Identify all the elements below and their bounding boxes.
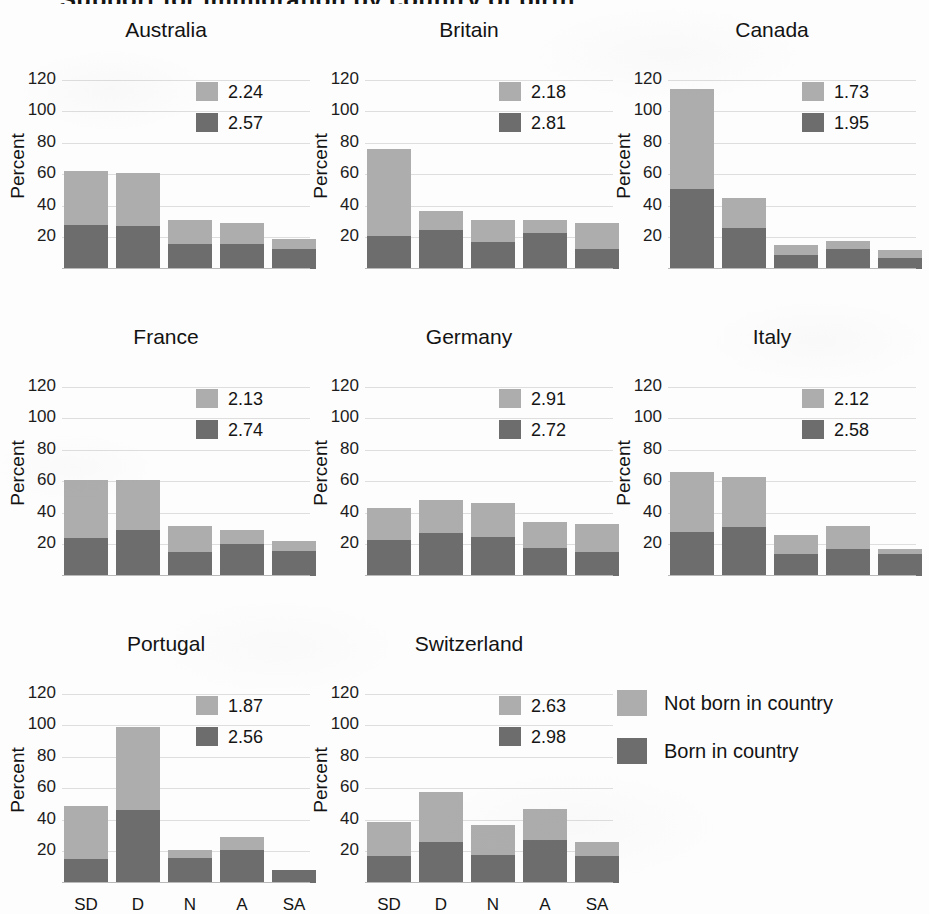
- bar-segment-not-born: [471, 503, 515, 536]
- mean-row-not-born: 2.63: [499, 696, 566, 715]
- bar-segment-born: [774, 554, 818, 576]
- y-tick-100: 100: [315, 100, 359, 120]
- legend-label-not-born: Not born in country: [664, 693, 833, 713]
- bar-segment-born: [220, 544, 264, 576]
- gridline-100: [62, 418, 310, 419]
- y-tick-60: 60: [12, 163, 56, 183]
- bar-segment-not-born: [878, 250, 922, 258]
- mean-swatch-not-born-icon: [802, 82, 824, 101]
- mean-row-not-born: 2.12: [802, 389, 869, 408]
- y-tick-60: 60: [618, 163, 662, 183]
- bar-A: [523, 522, 567, 576]
- x-tick-SD: SD: [367, 895, 411, 914]
- plot-area: [62, 64, 310, 269]
- bar-D: [419, 500, 463, 576]
- y-tick-120: 120: [12, 683, 56, 703]
- mean-swatch-born-icon: [196, 113, 218, 132]
- mean-swatch-not-born-icon: [196, 696, 218, 715]
- gridline-100: [365, 111, 613, 112]
- x-tick-A: A: [523, 895, 567, 914]
- panel-title-france: France: [22, 325, 310, 349]
- bar-N: [774, 245, 818, 269]
- y-tick-40: 40: [12, 502, 56, 522]
- gridline-120: [62, 80, 310, 81]
- bar-segment-not-born: [367, 508, 411, 540]
- panel-portugal: PortugalPercent204060801001201.872.56SDD…: [0, 632, 310, 914]
- y-tick-100: 100: [315, 714, 359, 734]
- gridline-100: [62, 725, 310, 726]
- y-tick-80: 80: [12, 439, 56, 459]
- mean-swatch-not-born-icon: [499, 82, 521, 101]
- mean-row-born: 2.56: [196, 727, 263, 746]
- bar-segment-born: [471, 537, 515, 576]
- mean-value-born: 1.95: [834, 114, 869, 132]
- gridline-80: [365, 450, 613, 451]
- legend-item-born: Born in country: [617, 738, 833, 764]
- panel-mean-legend: 2.182.81: [499, 82, 566, 132]
- mean-value-not-born: 2.18: [531, 83, 566, 101]
- bar-segment-born: [367, 236, 411, 269]
- x-tick-SD: SD: [64, 895, 108, 914]
- mean-value-not-born: 2.24: [228, 83, 263, 101]
- bar-segment-not-born: [64, 806, 108, 860]
- bar-segment-not-born: [774, 535, 818, 554]
- x-axis-line: [365, 268, 613, 269]
- bar-segment-born: [471, 855, 515, 883]
- bar-SD: [670, 89, 714, 269]
- bar-segment-not-born: [523, 522, 567, 547]
- y-tick-40: 40: [315, 502, 359, 522]
- bar-N: [471, 825, 515, 883]
- bar-SD: [367, 149, 411, 269]
- mean-swatch-born-icon: [196, 420, 218, 439]
- main-legend: Not born in country Born in country: [617, 690, 833, 764]
- bar-segment-not-born: [523, 809, 567, 841]
- y-tick-100: 100: [315, 407, 359, 427]
- bar-segment-born: [168, 244, 212, 269]
- y-tick-120: 120: [618, 376, 662, 396]
- bar-segment-born: [523, 233, 567, 269]
- gridline-80: [365, 143, 613, 144]
- plot-area: [62, 371, 310, 576]
- bar-D: [116, 727, 160, 883]
- mean-swatch-not-born-icon: [499, 389, 521, 408]
- gridline-120: [62, 694, 310, 695]
- legend-item-not-born: Not born in country: [617, 690, 833, 716]
- bar-SD: [64, 480, 108, 576]
- y-tick-80: 80: [315, 439, 359, 459]
- y-tick-60: 60: [315, 163, 359, 183]
- y-tick-80: 80: [618, 132, 662, 152]
- bar-N: [168, 220, 212, 269]
- mean-value-not-born: 2.12: [834, 390, 869, 408]
- gridline-80: [62, 143, 310, 144]
- y-tick-40: 40: [618, 502, 662, 522]
- y-tick-120: 120: [315, 683, 359, 703]
- legend-label-born: Born in country: [664, 741, 799, 761]
- bar-SD: [367, 508, 411, 576]
- bar-D: [722, 198, 766, 269]
- y-tick-100: 100: [12, 407, 56, 427]
- panel-canada: CanadaPercent204060801001201.731.95: [606, 18, 916, 308]
- y-tick-80: 80: [618, 439, 662, 459]
- bar-segment-born: [523, 548, 567, 576]
- bar-segment-born: [878, 554, 922, 576]
- bar-segment-not-born: [722, 477, 766, 527]
- gridline-60: [62, 788, 310, 789]
- legend-swatch-not-born-icon: [617, 690, 647, 716]
- y-tick-20: 20: [315, 226, 359, 246]
- bar-segment-born: [523, 840, 567, 883]
- bar-D: [116, 480, 160, 576]
- mean-row-born: 2.81: [499, 113, 566, 132]
- bar-segment-not-born: [168, 220, 212, 244]
- bar-segment-born: [419, 842, 463, 883]
- bar-D: [419, 211, 463, 269]
- mean-value-born: 2.58: [834, 421, 869, 439]
- mean-value-born: 2.98: [531, 728, 566, 746]
- mean-swatch-born-icon: [196, 727, 218, 746]
- y-tick-20: 20: [315, 840, 359, 860]
- bar-segment-born: [471, 242, 515, 269]
- bar-SD: [670, 472, 714, 576]
- mean-swatch-born-icon: [802, 420, 824, 439]
- mean-row-not-born: 1.73: [802, 82, 869, 101]
- panel-title-canada: Canada: [628, 18, 916, 42]
- x-axis-line: [62, 268, 310, 269]
